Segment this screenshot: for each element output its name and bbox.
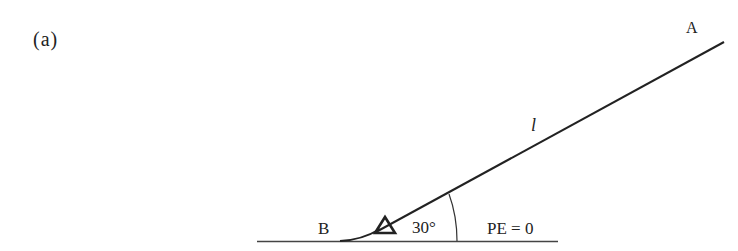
angle-arc <box>449 194 457 241</box>
length-label: l <box>531 116 536 134</box>
point-b-label: B <box>318 220 329 237</box>
point-a-label: A <box>686 20 698 36</box>
angle-label: 30° <box>412 219 436 236</box>
incline-line <box>376 42 724 232</box>
potential-energy-label: PE = 0 <box>487 220 533 237</box>
incline-diagram <box>0 0 738 251</box>
triangle-object-icon <box>375 217 395 233</box>
panel-label: (a) <box>33 29 58 49</box>
curved-track <box>340 229 380 241</box>
